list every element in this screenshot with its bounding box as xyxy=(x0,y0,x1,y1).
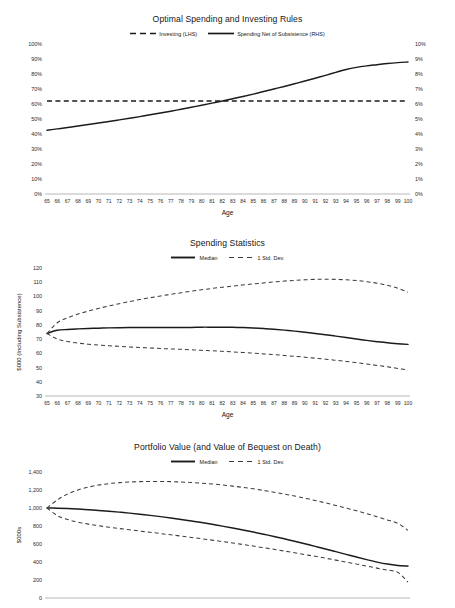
x-tick-label: 85 xyxy=(251,198,257,204)
x-tick-label: 95 xyxy=(354,198,360,204)
x-tick-label: 79 xyxy=(189,198,195,204)
y-tick-label: 30 xyxy=(36,393,42,399)
y-tick-label: 800 xyxy=(33,523,42,529)
x-tick-label: 91 xyxy=(312,198,318,204)
x-tick-label: 98 xyxy=(385,198,391,204)
chart2-svg: 30405060708090100110120$000 (Including S… xyxy=(0,262,455,412)
y-tick-label-right: 10% xyxy=(415,41,426,47)
x-tick-label: 67 xyxy=(65,198,71,204)
legend-item-median-spending: Median xyxy=(171,254,218,261)
chart-optimal-spending-and-investing-rules: Optimal Spending and Investing Rules Inv… xyxy=(0,14,455,230)
x-tick-label: 90 xyxy=(302,400,308,406)
x-tick-label: 89 xyxy=(292,400,298,406)
y-tick-label-right: 5% xyxy=(415,116,423,122)
chart2-title: Spending Statistics xyxy=(0,238,455,249)
solid-line-key-icon xyxy=(171,458,197,465)
y-tick-label: 10% xyxy=(31,176,42,182)
y-tick-label: 70% xyxy=(31,86,42,92)
x-tick-label: 75 xyxy=(147,198,153,204)
series-line-0 xyxy=(47,327,408,344)
clipped-text-artifact xyxy=(0,0,455,6)
x-tick-label: 84 xyxy=(240,198,246,204)
y-tick-label: 80% xyxy=(31,71,42,77)
chart1-xaxis-title: Age xyxy=(0,209,455,216)
y-tick-label: 40 xyxy=(36,379,42,385)
x-tick-label: 75 xyxy=(147,400,153,406)
x-tick-label: 95 xyxy=(354,400,360,406)
y-tick-label: 0% xyxy=(34,191,42,197)
x-tick-label: 89 xyxy=(292,198,298,204)
x-tick-label: 69 xyxy=(85,400,91,406)
y-tick-label: 30% xyxy=(31,146,42,152)
series-line-0 xyxy=(47,508,408,566)
x-tick-label: 85 xyxy=(251,400,257,406)
x-tick-label: 81 xyxy=(209,400,215,406)
y-tick-label-right: 0% xyxy=(415,191,423,197)
y-tick-label: 80 xyxy=(36,322,42,328)
x-tick-label: 92 xyxy=(323,198,329,204)
legend-item-median-portfolio: Median xyxy=(171,458,218,465)
x-tick-label: 68 xyxy=(75,400,81,406)
chart1-plot-area: 0%10%20%30%40%50%60%70%80%90%100%0%1%2%3… xyxy=(0,38,455,210)
chart2-plot-area: 30405060708090100110120$000 (Including S… xyxy=(0,262,455,412)
legend-label-spending-net: Spending Net of Subsistence (RHS) xyxy=(237,31,325,37)
y-tick-label: 40% xyxy=(31,131,42,137)
chart3-legend: Median 1 Std. Dev. xyxy=(0,457,455,466)
x-tick-label: 100 xyxy=(404,198,413,204)
x-tick-label: 76 xyxy=(158,198,164,204)
x-tick-label: 74 xyxy=(137,198,143,204)
y-tick-label: 0 xyxy=(39,595,42,601)
legend-label-stddev-spending: 1 Std. Dev. xyxy=(258,255,285,261)
y-tick-label: 400 xyxy=(33,559,42,565)
x-tick-label: 92 xyxy=(323,400,329,406)
y-tick-label: 1,200 xyxy=(29,487,43,493)
x-tick-label: 78 xyxy=(178,198,184,204)
chart2-legend: Median 1 Std. Dev. xyxy=(0,253,455,262)
dashed-line-key-icon xyxy=(229,458,255,465)
x-tick-label: 83 xyxy=(230,198,236,204)
x-tick-label: 96 xyxy=(364,400,370,406)
x-tick-label: 97 xyxy=(374,400,380,406)
x-tick-label: 87 xyxy=(271,400,277,406)
y-axis-title: $000s xyxy=(16,527,22,543)
y-tick-label: 50 xyxy=(36,365,42,371)
x-tick-label: 70 xyxy=(96,198,102,204)
y-tick-label: 1,000 xyxy=(29,505,43,511)
x-tick-label: 76 xyxy=(158,400,164,406)
y-tick-label: 100 xyxy=(33,293,42,299)
legend-item-stddev-portfolio: 1 Std. Dev. xyxy=(229,458,285,465)
x-tick-label: 82 xyxy=(220,400,226,406)
x-tick-label: 66 xyxy=(55,198,61,204)
x-tick-label: 83 xyxy=(230,400,236,406)
y-tick-label: 20% xyxy=(31,161,42,167)
legend-label-median-spending: Median xyxy=(200,255,218,261)
x-tick-label: 73 xyxy=(127,400,133,406)
x-tick-label: 97 xyxy=(374,198,380,204)
x-tick-label: 81 xyxy=(209,198,215,204)
chart1-svg: 0%10%20%30%40%50%60%70%80%90%100%0%1%2%3… xyxy=(0,38,455,210)
y-tick-label: 200 xyxy=(33,577,42,583)
chart-spending-statistics: Spending Statistics Median 1 Std. Dev. 3… xyxy=(0,238,455,428)
y-tick-label-right: 2% xyxy=(415,161,423,167)
x-tick-label: 68 xyxy=(75,198,81,204)
x-tick-label: 70 xyxy=(96,400,102,406)
y-tick-label: 90% xyxy=(31,56,42,62)
x-tick-label: 88 xyxy=(281,400,287,406)
y-tick-label: 60% xyxy=(31,101,42,107)
legend-label-investing: Investing (LHS) xyxy=(159,31,197,37)
y-tick-label-right: 1% xyxy=(415,176,423,182)
x-tick-label: 77 xyxy=(168,400,174,406)
series-line-1 xyxy=(47,62,408,130)
y-tick-label: 50% xyxy=(31,116,42,122)
legend-label-stddev-portfolio: 1 Std. Dev. xyxy=(258,459,285,465)
x-tick-label: 90 xyxy=(302,198,308,204)
y-tick-label-right: 3% xyxy=(415,146,423,152)
solid-line-key-icon xyxy=(208,30,234,37)
x-tick-label: 79 xyxy=(189,400,195,406)
x-tick-label: 65 xyxy=(44,198,50,204)
x-tick-label: 71 xyxy=(106,198,112,204)
y-tick-label-right: 6% xyxy=(415,101,423,107)
series-line-upper-1 xyxy=(47,481,408,530)
x-tick-label: 71 xyxy=(106,400,112,406)
x-tick-label: 100 xyxy=(404,400,413,406)
